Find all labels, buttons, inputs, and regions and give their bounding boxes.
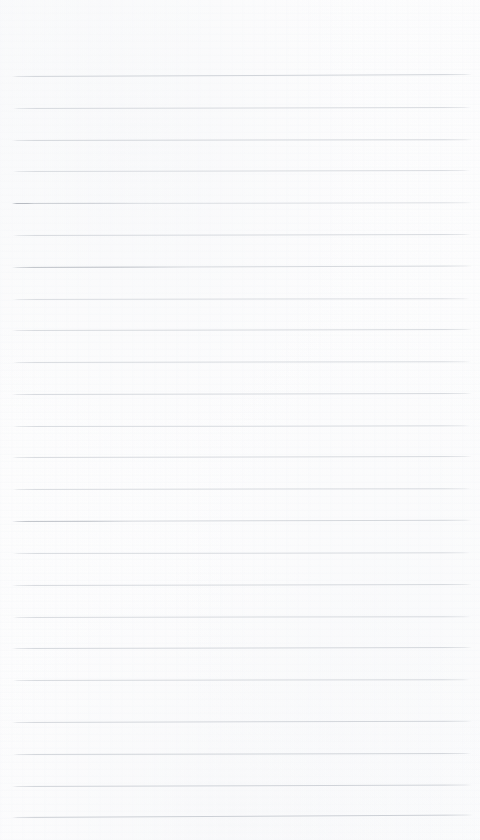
ruled-line [13,234,471,236]
ruled-line [13,616,471,618]
ruled-lines-layer [0,0,480,840]
ruled-line [12,520,472,522]
ruled-line [13,170,470,172]
ruled-line [12,785,472,787]
ruled-line [12,815,473,818]
ruled-line [12,456,472,458]
ruled-line [13,679,470,681]
ruled-line [12,74,472,77]
faint-dash-artifact [12,203,34,204]
ruled-line-darker-segment [12,266,187,268]
ruled-line [13,107,471,109]
ruled-line [12,584,472,586]
ruled-line [13,298,470,300]
ruled-line [12,393,472,395]
ruled-line [13,753,471,755]
ruled-line [13,361,471,363]
ruled-line [12,721,472,723]
ruled-line [12,647,472,649]
ruled-line [13,425,470,427]
ruled-line-darker-segment [12,521,132,522]
ruled-line [12,139,472,141]
scanned-page [0,0,480,840]
ruled-line [12,266,472,268]
ruled-line [13,488,471,490]
ruled-line [12,329,472,331]
ruled-line [13,552,470,554]
ruled-line [12,202,472,204]
